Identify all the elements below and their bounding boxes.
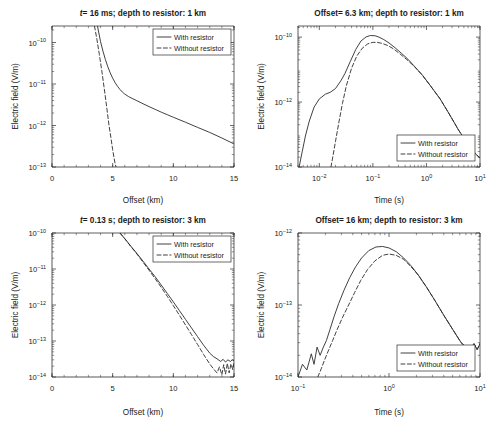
subplot-top-right: Offset= 6.3 km; depth to resistor: 1 km1… <box>246 0 492 211</box>
x-axis-label: Offset (km) <box>123 408 164 417</box>
legend: With resistorWithout resistor <box>153 236 231 262</box>
legend: With resistorWithout resistor <box>397 345 475 371</box>
subplot-title: Offset= 16 km; depth to resistor: 3 km <box>315 216 462 225</box>
legend-label-with-resistor: With resistor <box>174 240 215 249</box>
y-axis-label: Electric field (V/m) <box>11 63 20 130</box>
y-tick-label: 10−12 <box>274 97 292 107</box>
y-axis-label: Electric field (V/m) <box>11 272 20 339</box>
x-tick-label: 0 <box>50 174 54 183</box>
x-tick-label: 5 <box>111 384 115 393</box>
legend-label-without-resistor: Without resistor <box>174 44 225 53</box>
x-tick-label: 15 <box>230 174 238 183</box>
y-tick-label: 10−11 <box>29 79 46 89</box>
x-tick-label: 5 <box>111 174 115 183</box>
legend-label-with-resistor: With resistor <box>418 349 459 358</box>
x-tick-label: 10−2 <box>312 173 327 183</box>
y-tick-label: 10−12 <box>28 300 46 310</box>
y-tick-label: 10−11 <box>29 264 46 274</box>
x-tick-label: 101 <box>474 383 485 393</box>
legend: With resistorWithout resistor <box>397 135 475 161</box>
x-tick-label: 15 <box>230 384 238 393</box>
y-tick-label: 10−14 <box>28 372 46 382</box>
y-axis-label: Electric field (V/m) <box>257 63 266 130</box>
y-tick-label: 10−12 <box>28 120 46 130</box>
legend-label-with-resistor: With resistor <box>418 139 459 148</box>
x-tick-label: 10 <box>169 174 177 183</box>
x-axis-label: Offset (km) <box>123 196 164 205</box>
subplot-title: t= 16 ms; depth to resistor: 1 km <box>80 9 206 18</box>
x-axis-label: Time (s) <box>374 408 404 417</box>
y-tick-label: 10−13 <box>274 300 292 310</box>
x-axis-label: Time (s) <box>374 196 404 205</box>
figure-canvas: t= 16 ms; depth to resistor: 1 km10−1010… <box>0 0 492 423</box>
legend-label-without-resistor: Without resistor <box>174 251 225 260</box>
x-tick-label: 100 <box>383 383 394 393</box>
legend-label-without-resistor: Without resistor <box>418 150 469 159</box>
x-tick-label: 10−1 <box>291 383 306 393</box>
legend-label-without-resistor: Without resistor <box>418 360 469 369</box>
y-tick-label: 10−13 <box>28 162 46 172</box>
subplot-title: Offset= 6.3 km; depth to resistor: 1 km <box>314 9 463 18</box>
legend: With resistorWithout resistor <box>153 29 231 55</box>
y-tick-label: 10−10 <box>274 32 292 42</box>
y-tick-label: 10−14 <box>274 372 292 382</box>
x-tick-label: 10−1 <box>366 173 381 183</box>
y-tick-label: 10−10 <box>28 228 46 238</box>
series-curve-without-resistor <box>94 26 116 167</box>
y-axis-label: Electric field (V/m) <box>257 272 266 339</box>
legend-label-with-resistor: With resistor <box>174 33 215 42</box>
y-tick-label: 10−10 <box>28 37 46 47</box>
x-tick-label: 10 <box>169 384 177 393</box>
x-tick-label: 101 <box>474 173 485 183</box>
subplot-title: t= 0.13 s; depth to resistor: 3 km <box>80 216 206 225</box>
y-tick-label: 10−13 <box>28 336 46 346</box>
subplot-bottom-right: Offset= 16 km; depth to resistor: 3 km10… <box>246 211 492 423</box>
subplot-top-left: t= 16 ms; depth to resistor: 1 km10−1010… <box>0 0 246 211</box>
x-tick-label: 0 <box>50 384 54 393</box>
x-tick-label: 100 <box>421 173 432 183</box>
y-tick-label: 10−12 <box>274 228 292 238</box>
subplot-bottom-left: t= 0.13 s; depth to resistor: 3 km10−101… <box>0 211 246 423</box>
y-tick-label: 10−14 <box>274 162 292 172</box>
